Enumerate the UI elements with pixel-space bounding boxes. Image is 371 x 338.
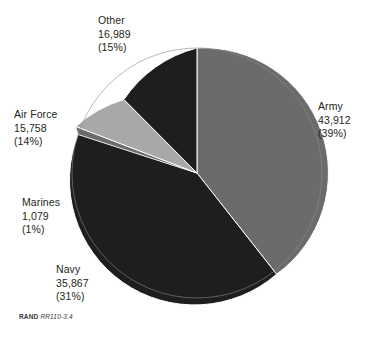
pie-label-marines-name: Marines <box>22 196 60 210</box>
pie-label-navy-value: 35,867 <box>56 277 89 291</box>
pie-label-other-value: 16,989 <box>98 28 131 42</box>
pie-label-navy-percent: (31%) <box>56 290 89 304</box>
pie-label-army-name: Army <box>318 100 351 114</box>
pie-label-air-force: Air Force 15,758 (14%) <box>14 108 58 149</box>
pie-label-navy-name: Navy <box>56 263 89 277</box>
pie-label-army: Army 43,912 (39%) <box>318 100 351 141</box>
pie-label-marines-value: 1,079 <box>22 210 60 224</box>
pie-label-army-value: 43,912 <box>318 114 351 128</box>
pie-label-other-name: Other <box>98 14 131 28</box>
pie-label-air-force-percent: (14%) <box>14 135 58 149</box>
pie-chart-figure: Other 16,989 (15%) Army 43,912 (39%) Air… <box>0 0 371 338</box>
pie-label-air-force-name: Air Force <box>14 108 58 122</box>
pie-label-air-force-value: 15,758 <box>14 122 58 136</box>
figure-source-note: RANDRR110-3.4 <box>19 313 73 320</box>
pie-label-army-percent: (39%) <box>318 127 351 141</box>
pie-label-marines: Marines 1,079 (1%) <box>22 196 60 237</box>
pie-label-marines-percent: (1%) <box>22 223 60 237</box>
source-identifier: RR110-3.4 <box>40 313 72 320</box>
source-brand: RAND <box>19 313 38 320</box>
pie-label-other: Other 16,989 (15%) <box>98 14 131 55</box>
pie-label-other-percent: (15%) <box>98 41 131 55</box>
pie-label-navy: Navy 35,867 (31%) <box>56 263 89 304</box>
